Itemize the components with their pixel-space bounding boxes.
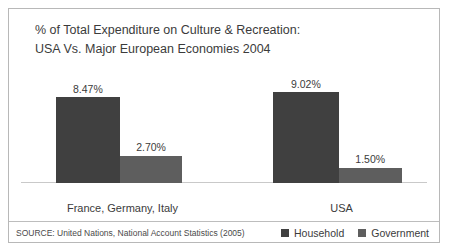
- bar-government[interactable]: [120, 156, 183, 183]
- bar-set: 9.02% 1.50%: [273, 65, 410, 183]
- category-label: France, Germany, Italy: [56, 202, 189, 214]
- bar-group-france-germany-italy: 8.47% 2.70% France, Germany, Italy: [56, 65, 189, 183]
- legend-item-government[interactable]: Government: [358, 227, 429, 239]
- legend-label: Government: [371, 227, 429, 239]
- bar-value-label-household: 8.47%: [56, 83, 120, 95]
- bar-wrap-government: 2.70%: [120, 65, 183, 183]
- chart-legend: Household Government: [281, 227, 429, 239]
- bar-wrap-household: 8.47%: [56, 65, 120, 183]
- bar-value-label-government: 2.70%: [120, 141, 183, 153]
- legend-swatch-icon: [358, 229, 366, 237]
- bar-group-usa: 9.02% 1.50% USA: [273, 65, 410, 183]
- bar-wrap-government: 1.50%: [339, 65, 402, 183]
- category-label: USA: [273, 202, 410, 214]
- chart-footer: SOURCE: United Nations, National Account…: [9, 222, 439, 243]
- bar-value-label-government: 1.50%: [339, 153, 402, 165]
- bar-household[interactable]: [56, 97, 120, 183]
- bar-government[interactable]: [339, 168, 402, 183]
- legend-swatch-icon: [281, 229, 289, 237]
- bar-set: 8.47% 2.70%: [56, 65, 189, 183]
- bar-wrap-household: 9.02%: [273, 65, 339, 183]
- legend-item-household[interactable]: Household: [281, 227, 344, 239]
- bar-household[interactable]: [273, 92, 339, 183]
- source-note: SOURCE: United Nations, National Account…: [16, 228, 245, 238]
- chart-figure: % of Total Expenditure on Culture & Recr…: [8, 8, 440, 243]
- chart-title: % of Total Expenditure on Culture & Recr…: [35, 21, 415, 59]
- bar-value-label-household: 9.02%: [273, 78, 339, 90]
- legend-label: Household: [294, 227, 344, 239]
- plot-area: 8.47% 2.70% France, Germany, Italy 9.02%…: [9, 65, 439, 220]
